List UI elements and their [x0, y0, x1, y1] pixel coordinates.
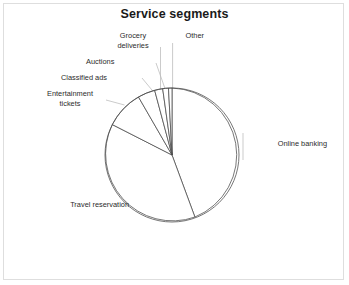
slice-label-other: Other — [164, 31, 204, 41]
slice-label-travel-reservation: Travel reservation — [47, 200, 129, 210]
slice-label-grocery-deliveries: Grocery deliveries — [104, 31, 162, 50]
slice-label-online-banking: Online banking — [247, 139, 327, 149]
leader-line-classified-ads — [142, 78, 154, 93]
slice-label-classified-ads: Classified ads — [61, 73, 140, 83]
pie-chart-figure: Service segments — [0, 0, 349, 285]
leader-line-entertainment-tickets — [106, 100, 125, 105]
slice-label-entertainment-tickets: Entertainment tickets — [36, 89, 104, 108]
slice-label-auctions: Auctions — [86, 57, 141, 67]
